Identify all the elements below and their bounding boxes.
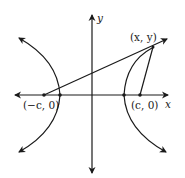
hyperbola-right-branch-upper bbox=[124, 48, 152, 95]
left-focus-label: (−c, 0) bbox=[23, 99, 59, 111]
focal-line-left bbox=[44, 39, 167, 95]
curve-point-label: (x, y) bbox=[130, 31, 157, 43]
hyperbola-left-branch-upper bbox=[19, 38, 60, 95]
left-focus-point bbox=[42, 93, 46, 97]
right-vertex-point bbox=[122, 93, 126, 97]
x-axis-label: x bbox=[165, 98, 171, 110]
right-focus-label: (c, 0) bbox=[131, 99, 158, 111]
left-vertex-point bbox=[58, 93, 62, 97]
y-axis-label: y bbox=[96, 12, 104, 24]
curve-point bbox=[152, 46, 155, 49]
hyperbola-diagram: y x (−c, 0) (c, 0) (x, y) bbox=[0, 0, 185, 178]
right-focus-point bbox=[138, 93, 142, 97]
